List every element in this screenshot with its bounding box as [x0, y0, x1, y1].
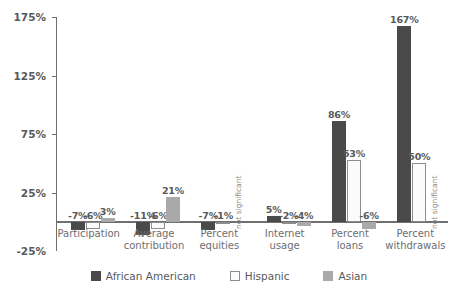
bar: [282, 222, 296, 224]
bar: [397, 26, 411, 221]
y-axis-tick-label: -25%: [0, 245, 46, 257]
bar: [101, 218, 115, 222]
x-axis-category-label: Percent loans: [313, 228, 386, 252]
not-significant-annotation: not significant: [430, 175, 439, 228]
bar-value-label: 53%: [339, 148, 369, 159]
y-axis-tick-label: 125%: [0, 70, 46, 82]
bar-group: 86%53%-6%: [332, 17, 376, 251]
legend-item[interactable]: African American: [91, 270, 196, 282]
bar: [216, 222, 230, 224]
y-axis-tick-label: 75%: [0, 128, 46, 140]
bar-value-label: 50%: [404, 151, 434, 162]
legend-label: Hispanic: [245, 270, 290, 282]
legend-label: African American: [106, 270, 196, 282]
y-axis-tick-mark: [52, 134, 57, 135]
bar-group: 5%-2%-4%: [267, 17, 311, 251]
legend-swatch-icon: [323, 271, 333, 281]
legend-label: Asian: [338, 270, 367, 282]
bar: [332, 121, 346, 222]
bar-value-label: 3%: [93, 206, 123, 217]
x-axis-category-label: Participation: [52, 228, 125, 240]
x-axis-category-label: Average contribution: [117, 228, 190, 252]
legend-item[interactable]: Asian: [323, 270, 367, 282]
bar: [412, 163, 426, 222]
y-axis-tick-mark: [52, 76, 57, 77]
x-axis-category-label: Percent equities: [183, 228, 256, 252]
bar: [297, 222, 311, 227]
bar-group: -11%-6%21%: [136, 17, 180, 251]
bar: [166, 197, 180, 222]
bar-value-label: 167%: [389, 14, 419, 25]
bar-chart: -25%25%75%125%175% -7%-6%3%-11%-6%21%-7%…: [0, 0, 458, 288]
bar-value-label: -4%: [289, 210, 319, 221]
bar-group: 167%50%not significant: [397, 17, 441, 251]
y-axis-tick-mark: [52, 17, 57, 18]
legend-item[interactable]: Hispanic: [230, 270, 290, 282]
y-axis-tick-label: 25%: [0, 187, 46, 199]
zero-baseline: [56, 221, 448, 223]
y-axis-tick-label: 175%: [0, 11, 46, 23]
y-axis-tick-mark: [52, 193, 57, 194]
legend-swatch-icon: [230, 271, 240, 281]
plot-area: -7%-6%3%-11%-6%21%-7%-1%not significant5…: [56, 17, 448, 251]
legend-swatch-icon: [91, 271, 101, 281]
x-axis-category-label: Internet usage: [248, 228, 321, 252]
bar-group: -7%-6%3%: [71, 17, 115, 251]
bar-value-label: 86%: [324, 109, 354, 120]
not-significant-annotation: not significant: [234, 175, 243, 228]
x-axis-category-labels: ParticipationAverage contributionPercent…: [56, 228, 448, 264]
chart-legend: African AmericanHispanicAsian: [0, 270, 458, 282]
y-axis-labels: -25%25%75%125%175%: [0, 17, 52, 251]
bar-value-label: -6%: [354, 210, 384, 221]
bar-group: -7%-1%not significant: [201, 17, 245, 251]
bar-value-label: 21%: [158, 185, 188, 196]
x-axis-category-label: Percent withdrawals: [379, 228, 452, 252]
